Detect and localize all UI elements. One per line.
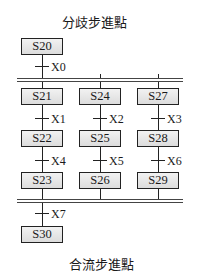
transition-tick <box>151 160 165 161</box>
step-s23: S23 <box>21 172 63 189</box>
transition-x6: X6 <box>167 155 182 167</box>
transition-x3: X3 <box>167 113 182 125</box>
step-s21: S21 <box>21 88 63 105</box>
step-s26: S26 <box>79 172 121 189</box>
transition-x2: X2 <box>109 113 124 125</box>
transition-tick <box>93 118 107 119</box>
step-s29: S29 <box>137 172 179 189</box>
step-s28: S28 <box>137 130 179 147</box>
connector <box>42 203 43 226</box>
transition-x4: X4 <box>51 155 66 167</box>
step-s30: S30 <box>21 226 63 243</box>
divergence-label: 分歧步進點 <box>62 12 127 31</box>
transition-x5: X5 <box>109 155 124 167</box>
transition-x1: X1 <box>51 113 66 125</box>
connector <box>100 189 101 199</box>
transition-tick <box>35 66 49 67</box>
transition-tick <box>35 213 49 214</box>
transition-tick <box>35 118 49 119</box>
transition-tick <box>151 118 165 119</box>
convergence-bar-top <box>17 199 183 200</box>
step-s25: S25 <box>79 130 121 147</box>
step-s27: S27 <box>137 88 179 105</box>
connector <box>42 189 43 199</box>
connector <box>158 74 159 78</box>
transition-x7: X7 <box>51 208 66 220</box>
step-s22: S22 <box>21 130 63 147</box>
step-s24: S24 <box>79 88 121 105</box>
transition-tick <box>35 160 49 161</box>
divergence-bar-top <box>17 78 183 79</box>
connector <box>100 74 101 78</box>
step-s20: S20 <box>21 38 63 55</box>
transition-tick <box>93 160 107 161</box>
transition-x0: X0 <box>51 61 66 73</box>
convergence-label: 合流步進點 <box>69 254 134 273</box>
connector <box>158 189 159 199</box>
